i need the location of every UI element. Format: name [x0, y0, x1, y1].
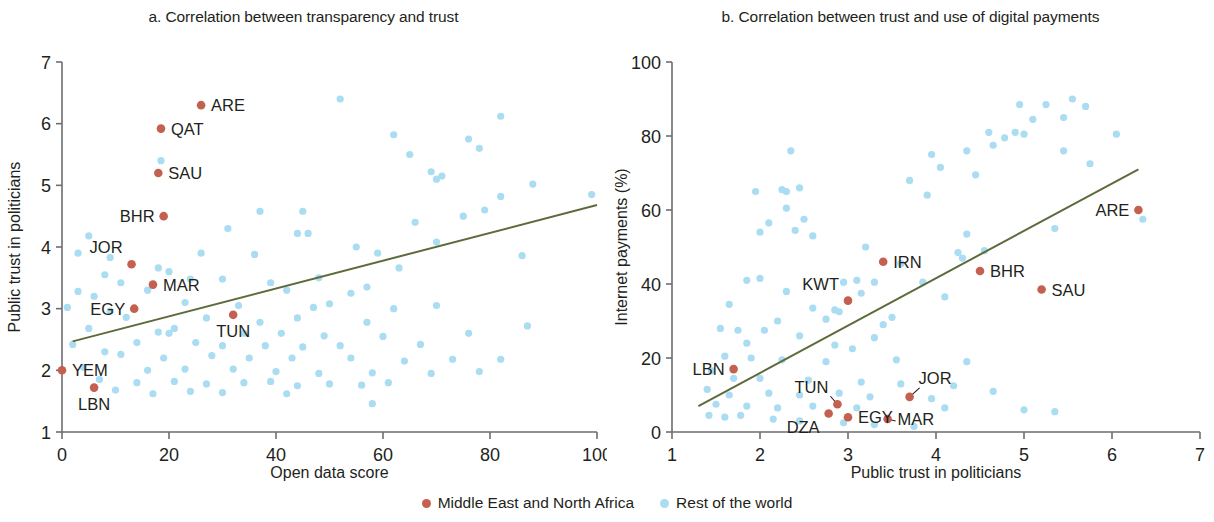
scatter-point-other: [1029, 116, 1036, 123]
scatter-point-mena: [824, 409, 833, 418]
x-tick-label: 6: [1107, 445, 1117, 465]
scatter-point-other: [743, 277, 750, 284]
scatter-point-label: YEM: [72, 361, 108, 379]
scatter-point-other: [428, 168, 435, 175]
scatter-point-other: [880, 321, 887, 328]
scatter-point-other: [721, 353, 728, 360]
scatter-point-other: [888, 314, 895, 321]
panel-b-plot: 0204060801001234567Public trust in polit…: [607, 0, 1214, 492]
y-tick-label: 4: [41, 238, 51, 258]
scatter-point-other: [358, 382, 365, 389]
scatter-point-other: [401, 357, 408, 364]
scatter-point-other: [363, 319, 370, 326]
y-tick-label: 60: [641, 201, 661, 221]
scatter-point-label: QAT: [171, 120, 204, 138]
scatter-point-other: [219, 389, 226, 396]
scatter-point-other: [990, 142, 997, 149]
y-tick-label: 80: [641, 127, 661, 147]
x-tick-label: 5: [1019, 445, 1029, 465]
scatter-point-other: [1139, 216, 1146, 223]
scatter-point-other: [149, 390, 156, 397]
scatter-point-other: [294, 230, 301, 237]
scatter-point-other: [774, 317, 781, 324]
scatter-point-other: [1042, 101, 1049, 108]
scatter-point-mena: [844, 296, 853, 305]
scatter-point-mena: [833, 400, 842, 409]
scatter-point-other: [133, 339, 140, 346]
scatter-point-other: [133, 379, 140, 386]
scatter-point-other: [256, 319, 263, 326]
scatter-point-mena: [905, 393, 914, 402]
scatter-point-other: [809, 232, 816, 239]
scatter-point-other: [321, 332, 328, 339]
scatter-point-other: [858, 290, 865, 297]
legend-swatch-other-icon: [660, 499, 669, 508]
y-axis-title: Internet payments (%): [613, 168, 630, 325]
scatter-point-other: [390, 131, 397, 138]
scatter-point-other: [822, 358, 829, 365]
scatter-point-other: [117, 279, 124, 286]
scatter-point-label: TUN: [795, 378, 829, 396]
y-tick-label: 0: [651, 423, 661, 443]
scatter-point-other: [524, 322, 531, 329]
scatter-point-other: [497, 356, 504, 363]
scatter-point-mena: [1134, 206, 1143, 215]
panel-a: a. Correlation between transparency and …: [0, 0, 607, 492]
scatter-point-other: [278, 330, 285, 337]
trend-line: [73, 205, 597, 341]
scatter-point-other: [465, 330, 472, 337]
x-tick-label: 0: [57, 445, 67, 465]
scatter-point-other: [181, 366, 188, 373]
scatter-point-other: [171, 325, 178, 332]
scatter-point-other: [294, 314, 301, 321]
scatter-point-other: [460, 213, 467, 220]
scatter-point-label: EGY: [858, 408, 893, 426]
scatter-point-label: SAU: [168, 164, 202, 182]
scatter-point-other: [165, 268, 172, 275]
scatter-point-other: [783, 205, 790, 212]
x-tick-label: 2: [755, 445, 765, 465]
scatter-point-other: [972, 171, 979, 178]
scatter-point-other: [219, 342, 226, 349]
scatter-point-other: [369, 400, 376, 407]
scatter-point-other: [272, 368, 279, 375]
scatter-point-other: [862, 243, 869, 250]
scatter-point-other: [299, 208, 306, 215]
scatter-point-other: [705, 412, 712, 419]
x-tick-label: 80: [480, 445, 500, 465]
scatter-point-mena: [149, 280, 158, 289]
scatter-point-other: [963, 358, 970, 365]
scatter-point-mena: [58, 366, 67, 375]
scatter-point-other: [363, 283, 370, 290]
scatter-point-other: [796, 332, 803, 339]
scatter-point-other: [1051, 408, 1058, 415]
scatter-point-other: [963, 147, 970, 154]
scatter-point-other: [230, 366, 237, 373]
scatter-point-label: BHR: [990, 262, 1025, 280]
scatter-point-other: [85, 325, 92, 332]
scatter-point-other: [756, 229, 763, 236]
scatter-point-other: [959, 255, 966, 262]
scatter-point-other: [840, 279, 847, 286]
scatter-point-other: [74, 288, 81, 295]
scatter-point-other: [712, 401, 719, 408]
scatter-point-other: [390, 305, 397, 312]
scatter-point-other: [157, 157, 164, 164]
scatter-point-other: [792, 227, 799, 234]
scatter-point-other: [756, 375, 763, 382]
scatter-point-mena: [154, 169, 163, 178]
scatter-point-label: BHR: [120, 207, 155, 225]
scatter-point-label: JOR: [90, 238, 123, 256]
legend-item-mena: Middle East and North Africa: [422, 494, 634, 512]
scatter-point-other: [481, 206, 488, 213]
scatter-point-other: [353, 243, 360, 250]
scatter-point-mena: [130, 304, 139, 313]
scatter-point-other: [770, 415, 777, 422]
scatter-point-other: [326, 380, 333, 387]
scatter-point-other: [519, 252, 526, 259]
scatter-point-other: [69, 341, 76, 348]
scatter-point-other: [385, 379, 392, 386]
scatter-point-other: [941, 293, 948, 300]
scatter-point-mena: [197, 101, 206, 110]
scatter-point-other: [809, 403, 816, 410]
